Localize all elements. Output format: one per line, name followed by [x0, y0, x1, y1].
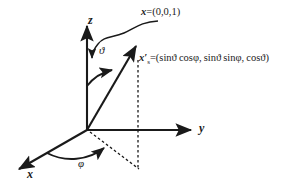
unit-vector-label: x=(0,0,1)	[141, 7, 180, 18]
y-axis-label: y	[199, 122, 204, 134]
polar-angle-label: ϑ	[99, 45, 104, 56]
azimuth-angle-label: φ	[78, 158, 84, 169]
azimuth-angle-arc	[47, 148, 104, 159]
rotated-vector-arrow	[87, 46, 136, 130]
rotated-vector-equals: =(sinϑ cosφ, sinϑ sinφ, cosϑ)	[150, 52, 269, 63]
x-axis-line	[19, 130, 87, 169]
spherical-coordinates-figure: z y x ϑ φ x=(0,0,1) x′s=(sinϑ cosφ, sinϑ…	[0, 0, 289, 189]
x-axis-label: x	[27, 168, 33, 180]
polar-angle-arc	[87, 70, 112, 86]
rotated-vector-label: x′s=(sinϑ cosφ, sinϑ sinφ, cosϑ)	[139, 53, 269, 66]
ground-projection-dashed-line	[90, 132, 139, 169]
z-axis-label: z	[88, 14, 93, 26]
diagram-canvas	[0, 0, 289, 189]
unit-vector-equals: =(0,0,1)	[146, 6, 180, 17]
